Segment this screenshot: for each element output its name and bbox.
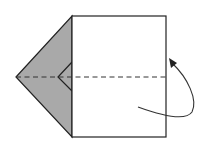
- origami-diagram: [0, 0, 205, 149]
